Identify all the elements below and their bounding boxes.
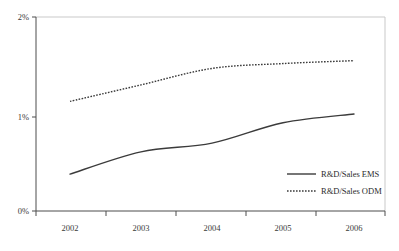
x-axis-label-2002: 2002 (62, 223, 79, 233)
chart-container: 2% 1% 0% 2002 2003 2004 2005 2006 R&D/Sa… (0, 0, 399, 251)
y-axis-label-2pct: 2% (18, 12, 29, 22)
x-axis-label-2003: 2003 (133, 223, 150, 233)
y-axis-label-1pct: 1% (18, 112, 29, 122)
legend-label-ems: R&D/Sales EMS (321, 169, 380, 179)
chart-background (0, 0, 399, 251)
x-axis-label-2005: 2005 (275, 223, 292, 233)
legend-label-odm: R&D/Sales ODM (321, 186, 382, 196)
x-axis-label-2006: 2006 (346, 223, 363, 233)
y-axis-label-0pct: 0% (18, 206, 29, 216)
line-chart: 2% 1% 0% 2002 2003 2004 2005 2006 R&D/Sa… (0, 0, 399, 251)
x-axis-label-2004: 2004 (204, 223, 222, 233)
